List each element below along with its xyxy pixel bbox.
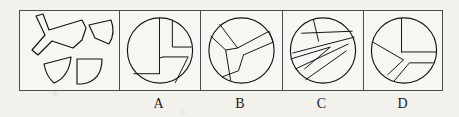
piece-2-shape bbox=[89, 20, 113, 44]
option-c-circle bbox=[290, 18, 355, 83]
panel-option-a[interactable] bbox=[119, 11, 200, 90]
option-d-drawing bbox=[364, 11, 444, 90]
option-b-prong-lower bbox=[226, 50, 231, 81]
option-label-d: D bbox=[362, 92, 443, 116]
option-a-drawing bbox=[120, 11, 200, 90]
option-b-drawing bbox=[201, 11, 282, 90]
option-b-prong-right bbox=[238, 31, 274, 55]
option-c-drawing bbox=[283, 11, 363, 90]
option-label-b: B bbox=[199, 92, 281, 116]
panel-option-b[interactable] bbox=[200, 11, 282, 90]
option-b-prong-lower-inner bbox=[223, 55, 244, 77]
option-c-lower-stripe bbox=[296, 44, 348, 69]
panel-option-c[interactable] bbox=[282, 11, 363, 90]
option-c-zigzag-stripe bbox=[291, 47, 331, 69]
puzzle-page: A B C D bbox=[0, 0, 459, 117]
piece-3-shape bbox=[44, 57, 71, 83]
option-b-prong-upper-left bbox=[211, 24, 238, 50]
option-label-c: C bbox=[281, 92, 362, 116]
option-label-a: A bbox=[118, 92, 199, 116]
option-c-upper-divider bbox=[314, 20, 319, 41]
option-b-circle bbox=[209, 18, 274, 83]
option-d-circle bbox=[371, 18, 436, 83]
scattered-pieces-drawing bbox=[20, 11, 119, 90]
option-a-notch-base bbox=[160, 57, 164, 58]
panel-scattered-pieces bbox=[20, 11, 119, 90]
piece-1-shape bbox=[32, 14, 86, 55]
piece-4-shape bbox=[77, 59, 102, 84]
figure-frame bbox=[19, 10, 443, 91]
option-d-lower-divider bbox=[394, 63, 434, 82]
panel-option-d[interactable] bbox=[363, 11, 444, 90]
option-c-diagonal-band bbox=[293, 37, 354, 53]
option-labels: A B C D bbox=[19, 92, 443, 116]
option-c-bottom-stripe bbox=[306, 51, 346, 80]
option-c-diagonal-upper bbox=[302, 31, 352, 33]
